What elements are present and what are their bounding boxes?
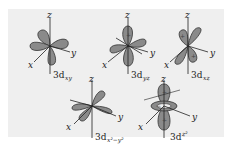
axis-x-label: x xyxy=(66,122,71,132)
axis-z-label: z xyxy=(160,74,166,84)
orbital-subscript: x²−y² xyxy=(107,136,124,144)
orbital-dxy: z x y 3d xy xyxy=(20,12,90,80)
axis-y-label: y xyxy=(117,112,124,122)
orbital-dx2y2: z x y 3d x²−y² xyxy=(56,76,136,144)
orbital-dz2: + − + z x y 3d z² xyxy=(130,76,210,144)
orbital-name: 3d xyxy=(95,132,107,142)
sign-minus: − xyxy=(156,102,161,109)
sign-plus: + xyxy=(126,31,131,38)
axis-y-label: y xyxy=(209,48,216,58)
sign-plus: + xyxy=(180,32,185,39)
axis-z-label: z xyxy=(88,74,94,84)
axis-y-label: y xyxy=(191,112,198,122)
axis-x-label: x xyxy=(164,60,169,70)
sign-plus: + xyxy=(191,52,196,59)
orbital-name: 3d xyxy=(170,132,182,142)
sign-plus: + xyxy=(162,88,167,95)
axis-z-label: z xyxy=(184,10,190,20)
axis-z-label: z xyxy=(124,10,130,20)
axis-z-label: z xyxy=(46,10,52,20)
axis-x-label: x xyxy=(138,122,143,132)
axis-x-label: x xyxy=(28,60,33,70)
axis-x-label: x xyxy=(102,60,107,70)
orbital-subscript: z² xyxy=(181,130,188,137)
axis-y-label: y xyxy=(70,48,77,58)
orbital-dyz: + z x y 3d yz xyxy=(94,12,164,80)
orbital-dxz: + + z x y 3d xz xyxy=(158,12,228,80)
axis-y-label: y xyxy=(149,48,156,58)
sign-plus: + xyxy=(162,116,167,123)
